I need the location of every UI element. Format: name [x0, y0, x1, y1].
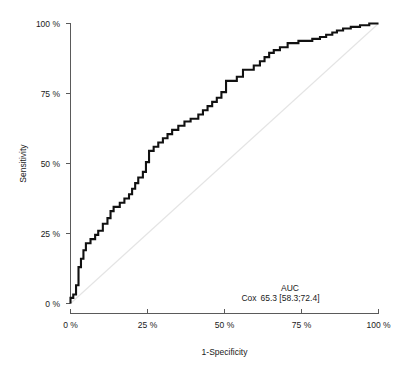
auc-annotation: AUC Cox 65.3 [58.3;72.4]	[241, 283, 319, 303]
x-tick-label-75: 75 %	[292, 320, 312, 330]
x-tick-label-50: 50 %	[215, 320, 235, 330]
y-tick-label-50: 50 %	[41, 159, 61, 169]
auc-row-value-cox: 65.3 [58.3;72.4]	[260, 293, 319, 303]
y-tick-label-75: 75 %	[41, 89, 61, 99]
auc-header-label: AUC	[281, 283, 299, 293]
reference-diagonal-line	[71, 24, 379, 304]
y-tick-label-100: 100 %	[36, 19, 61, 29]
roc-chart: 100 % 75 % 50 % 25 % 0 % 0 % 25 % 50 % 7…	[0, 0, 402, 375]
x-tick-label-25: 25 %	[138, 320, 158, 330]
auc-row-model-cox: Cox	[241, 293, 257, 303]
x-axis-title: 1-Specificity	[202, 347, 249, 357]
roc-chart-svg: 100 % 75 % 50 % 25 % 0 % 0 % 25 % 50 % 7…	[0, 0, 402, 375]
x-tick-label-100: 100 %	[366, 320, 391, 330]
y-tick-label-25: 25 %	[41, 229, 61, 239]
y-axis-title: Sensitivity	[18, 144, 28, 183]
y-tick-label-0: 0 %	[45, 299, 60, 309]
y-axis-ticks	[66, 24, 71, 304]
x-axis-ticks	[71, 309, 379, 314]
x-tick-label-0: 0 %	[63, 320, 78, 330]
